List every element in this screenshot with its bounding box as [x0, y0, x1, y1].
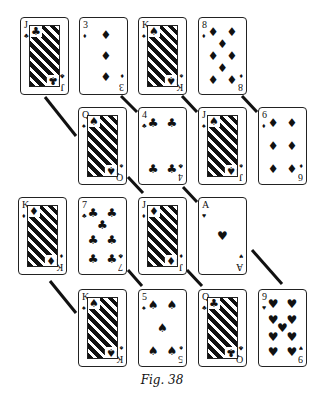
card-rank-corner: 9♥ — [298, 343, 303, 364]
connector-line — [45, 97, 76, 136]
hearts-icon: ♥ — [287, 331, 298, 343]
clubs-icon: ♣ — [208, 298, 220, 309]
spades-icon: ♠ — [88, 298, 100, 309]
hearts-icon: ♥ — [268, 346, 279, 358]
court-card-portrait: ♣♣ — [29, 25, 60, 87]
card-rank-corner: A♥ — [202, 200, 209, 221]
clubs-icon: ♣ — [97, 219, 108, 231]
card-rank-corner: 8♦ — [202, 20, 207, 41]
spades-icon: ♠ — [225, 165, 237, 176]
diamonds-icon: ♦ — [287, 163, 298, 175]
diamonds-icon: ♦ — [100, 50, 111, 62]
clubs-icon: ♣ — [148, 163, 159, 175]
court-card-portrait: ♠♠ — [87, 297, 118, 359]
court-card-portrait: ♠♠ — [87, 115, 118, 177]
playing-card-4-of-clubs: 4♣4♣♣♣♣♣ — [138, 107, 187, 185]
clubs-icon: ♣ — [107, 234, 118, 246]
playing-card-q-of-clubs: Q♣Q♣♣♣ — [198, 289, 247, 367]
playing-card-k-of-spades: K♠K♠♠♠ — [138, 17, 187, 95]
spades-icon: ♠ — [105, 165, 117, 176]
spades-icon: ♠ — [167, 299, 178, 311]
court-card-portrait: ♠♠ — [207, 115, 238, 177]
card-rank-corner: 5♠ — [178, 343, 183, 364]
clubs-icon: ♣ — [225, 347, 237, 358]
clubs-icon: ♣ — [167, 163, 178, 175]
diamonds-icon: ♦ — [100, 29, 111, 41]
clubs-icon: ♣ — [167, 117, 178, 129]
diamonds-icon: ♦ — [208, 74, 219, 86]
card-rank-corner: J♠ — [202, 110, 206, 131]
playing-card-5-of-spades: 5♠5♠♠♠♠♠♠ — [138, 289, 187, 367]
hearts-icon: ♥ — [217, 230, 228, 242]
card-rank-corner: 4♣ — [178, 161, 183, 182]
playing-card-9-of-hearts: 9♥9♥♥♥♥♥♥♥♥♥♥ — [258, 289, 307, 367]
diamonds-icon: ♦ — [165, 255, 177, 266]
spades-icon: ♠ — [88, 116, 100, 127]
spades-icon: ♠ — [157, 322, 168, 334]
card-rank-corner: 6♦ — [298, 161, 303, 182]
spades-icon: ♠ — [208, 116, 220, 127]
playing-card-a-of-hearts: A♥A♥♥ — [198, 197, 247, 275]
hearts-icon: ♥ — [268, 298, 279, 310]
card-rank-corner: J♠ — [239, 161, 243, 182]
diamonds-icon: ♦ — [227, 26, 238, 38]
diamonds-icon: ♦ — [28, 206, 40, 217]
playing-card-6-of-diamonds: 6♦6♦♦♦♦♦♦♦ — [258, 107, 307, 185]
spades-icon: ♠ — [167, 345, 178, 357]
clubs-icon: ♣ — [107, 207, 118, 219]
diamonds-icon: ♦ — [268, 163, 279, 175]
diamonds-icon: ♦ — [227, 50, 238, 62]
card-rank-corner: J♦ — [142, 200, 146, 221]
diamonds-icon: ♦ — [45, 255, 57, 266]
diamonds-icon: ♦ — [287, 140, 298, 152]
spades-icon: ♠ — [148, 345, 159, 357]
card-rank-corner: 5♠ — [142, 292, 147, 313]
diamonds-icon: ♦ — [268, 117, 279, 129]
diamonds-icon: ♦ — [287, 117, 298, 129]
playing-card-j-of-spades: J♠J♠♠♠ — [198, 107, 247, 185]
card-rank-corner: A♥ — [236, 251, 243, 272]
playing-card-j-of-diamonds: J♦J♦♦♦ — [138, 197, 187, 275]
spades-icon: ♠ — [148, 26, 160, 37]
card-rank-corner: 3♦ — [119, 71, 124, 92]
card-rank-corner: 9♥ — [262, 292, 267, 313]
card-rank-corner: 4♣ — [142, 110, 147, 131]
card-rank-corner: 7♣ — [82, 200, 87, 221]
card-rank-corner: J♦ — [179, 251, 183, 272]
card-rank-corner: 7♣ — [118, 251, 123, 272]
card-rank-corner: 6♦ — [262, 110, 267, 131]
card-rank-corner: 3♦ — [83, 20, 88, 41]
court-card-portrait: ♦♦ — [147, 205, 178, 267]
playing-card-7-of-clubs: 7♣7♣♣♣♣♣♣♣♣ — [78, 197, 127, 275]
hearts-icon: ♥ — [268, 331, 279, 343]
clubs-icon: ♣ — [148, 117, 159, 129]
card-rank-corner: J♣ — [60, 71, 65, 92]
card-rank-corner: 8♦ — [238, 71, 243, 92]
clubs-icon: ♣ — [107, 253, 118, 265]
hearts-icon: ♥ — [287, 314, 298, 326]
spades-icon: ♠ — [105, 347, 117, 358]
clubs-icon: ♣ — [88, 253, 99, 265]
card-rank-corner: J♣ — [24, 20, 29, 41]
hearts-icon: ♥ — [287, 298, 298, 310]
court-card-portrait: ♣♣ — [207, 297, 238, 359]
playing-card-j-of-clubs: J♣J♣♣♣ — [20, 17, 69, 95]
playing-card-8-of-diamonds: 8♦8♦♦♦♦♦♦♦♦♦ — [198, 17, 247, 95]
clubs-icon: ♣ — [47, 75, 59, 86]
diamonds-icon: ♦ — [227, 74, 238, 86]
hearts-icon: ♥ — [287, 346, 298, 358]
spades-icon: ♠ — [148, 299, 159, 311]
clubs-icon: ♣ — [88, 234, 99, 246]
diamonds-icon: ♦ — [148, 206, 160, 217]
clubs-icon: ♣ — [30, 26, 42, 37]
connector-line — [252, 250, 282, 284]
court-card-portrait: ♠♠ — [147, 25, 178, 87]
playing-card-q-of-spades: Q♠Q♠♠♠ — [78, 107, 127, 185]
connector-line — [50, 281, 76, 313]
playing-card-3-of-diamonds: 3♦3♦♦♦♦ — [79, 17, 128, 95]
diamonds-icon: ♦ — [268, 140, 279, 152]
figure-caption: Fig. 38 — [0, 373, 324, 387]
playing-card-k-of-spades: K♠K♠♠♠ — [78, 289, 127, 367]
court-card-portrait: ♦♦ — [27, 205, 58, 267]
playing-card-k-of-diamonds: K♦K♦♦♦ — [18, 197, 67, 275]
